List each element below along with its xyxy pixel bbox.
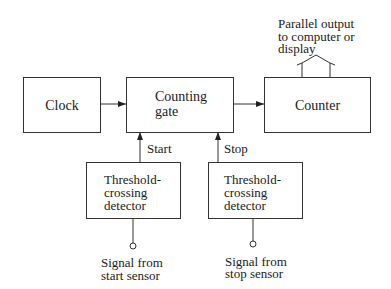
counter-label: Counter: [295, 99, 340, 112]
start-label: Start: [147, 142, 172, 155]
clock-block: Clock: [23, 77, 101, 133]
clock-label: Clock: [45, 99, 78, 112]
output-label-3: display: [278, 42, 316, 55]
stop-detector-label-3: detector: [224, 199, 266, 212]
stop-signal-label-2: stop sensor: [225, 267, 283, 280]
stop-threshold-detector-block: Threshold- crossing detector: [208, 162, 303, 219]
stop-label: Stop: [224, 142, 248, 155]
start-threshold-detector-block: Threshold- crossing detector: [86, 162, 181, 219]
counting-gate-label-1: Counting: [155, 90, 207, 103]
start-signal-label-2: start sensor: [101, 269, 160, 282]
counting-gate-block: Counting gate: [126, 77, 234, 133]
counting-gate-label-2: gate: [155, 105, 178, 118]
start-detector-label-3: detector: [104, 199, 146, 212]
counter-block: Counter: [264, 77, 371, 133]
